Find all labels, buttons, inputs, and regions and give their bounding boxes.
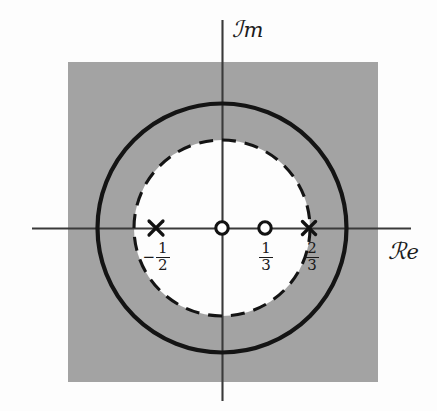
zero-origin-marker bbox=[216, 222, 228, 234]
imaginary-axis-label: ℐm bbox=[232, 16, 264, 42]
fraction-denominator: 3 bbox=[259, 258, 273, 274]
minus-sign: − bbox=[142, 250, 156, 266]
fraction-denominator: 3 bbox=[305, 258, 319, 274]
im-label-text: m bbox=[244, 18, 264, 42]
fraction-one-half: 12 bbox=[156, 241, 170, 274]
fraction-one-third: 13 bbox=[259, 241, 273, 274]
fraction-denominator: 2 bbox=[156, 258, 170, 274]
script-r-glyph: ℛ bbox=[388, 238, 407, 264]
label-zero-one-third: 13 bbox=[246, 241, 286, 274]
label-pole-neg-half: −12 bbox=[134, 241, 178, 274]
complex-plane-figure: ℐm ℛe −12 13 23 bbox=[0, 0, 437, 411]
re-label-text: e bbox=[407, 240, 420, 264]
fraction-two-thirds: 23 bbox=[305, 241, 319, 274]
figure-canvas bbox=[0, 0, 437, 411]
real-axis-label: ℛe bbox=[388, 238, 419, 264]
label-pole-two-thirds: 23 bbox=[292, 241, 332, 274]
script-i-glyph: ℐ bbox=[232, 16, 244, 42]
zero-one-third-marker bbox=[259, 222, 271, 234]
